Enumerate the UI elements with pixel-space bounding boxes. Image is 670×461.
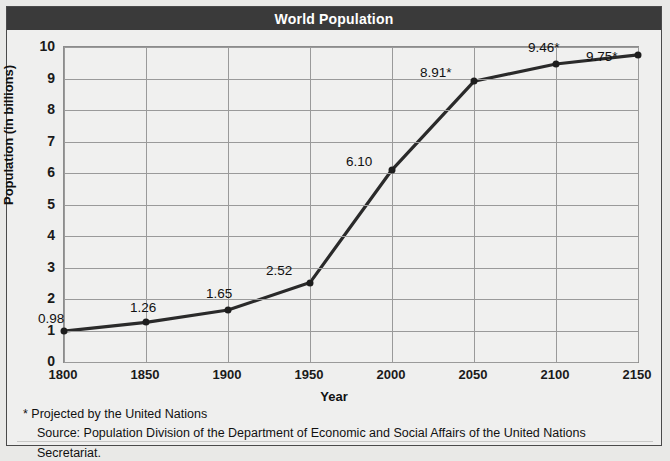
gridline-vertical xyxy=(310,47,311,362)
chart-figure: World Population Population (in billions… xyxy=(6,6,662,446)
y-axis-title: Population (in billions) xyxy=(1,65,16,205)
data-point xyxy=(307,279,314,286)
plot-area: 0.981.261.652.526.108.91*9.46*9.75* xyxy=(63,46,639,363)
y-axis-tick-label: 5 xyxy=(25,196,55,212)
chart-title-bar: World Population xyxy=(7,7,661,30)
footer-divider xyxy=(17,441,653,442)
chart-title: World Population xyxy=(275,11,394,27)
y-axis-tick-label: 8 xyxy=(25,101,55,117)
gridline-horizontal xyxy=(64,331,638,332)
data-point xyxy=(553,61,560,68)
data-point-value-label: 2.52 xyxy=(266,263,292,278)
x-axis-tick-label: 2000 xyxy=(377,367,406,382)
data-point-value-label: 1.65 xyxy=(206,286,232,301)
gridline-horizontal xyxy=(64,142,638,143)
data-point xyxy=(635,51,642,58)
gridline-horizontal xyxy=(64,268,638,269)
data-point-value-label: 9.46* xyxy=(528,40,560,55)
y-axis-tick-label: 9 xyxy=(25,70,55,86)
data-point-value-label: 9.75* xyxy=(586,49,618,64)
gridline-horizontal xyxy=(64,362,638,363)
x-axis-title: Year xyxy=(7,389,661,404)
data-point xyxy=(389,166,396,173)
gridline-vertical xyxy=(638,47,639,362)
gridline-vertical xyxy=(228,47,229,362)
y-axis-tick-label: 2 xyxy=(25,290,55,306)
gridline-horizontal xyxy=(64,110,638,111)
data-point-value-label: 6.10 xyxy=(346,154,372,169)
data-point-value-label: 8.91* xyxy=(420,65,452,80)
projection-note: * Projected by the United Nations xyxy=(23,405,643,424)
x-axis-tick-label: 1850 xyxy=(131,367,160,382)
x-axis-tick-label: 2050 xyxy=(459,367,488,382)
x-axis-tick-label: 1900 xyxy=(213,367,242,382)
source-note: Source: Population Division of the Depar… xyxy=(23,424,643,461)
gridline-vertical xyxy=(474,47,475,362)
data-point xyxy=(471,78,478,85)
x-axis-tick-label: 2100 xyxy=(541,367,570,382)
y-axis-tick-label: 10 xyxy=(25,38,55,54)
gridline-vertical xyxy=(392,47,393,362)
data-point-value-label: 1.26 xyxy=(130,300,156,315)
y-axis-tick-label: 6 xyxy=(25,164,55,180)
chart-notes: * Projected by the United Nations Source… xyxy=(23,405,643,461)
data-point xyxy=(143,319,150,326)
gridline-horizontal xyxy=(64,173,638,174)
x-axis-tick-label: 1950 xyxy=(295,367,324,382)
gridline-horizontal xyxy=(64,236,638,237)
x-axis-tick-label: 1800 xyxy=(49,367,78,382)
gridline-horizontal xyxy=(64,79,638,80)
y-axis-tick-label: 3 xyxy=(25,259,55,275)
y-axis-tick-label: 4 xyxy=(25,227,55,243)
data-point xyxy=(225,307,232,314)
data-point xyxy=(61,328,68,335)
data-point-value-label: 0.98 xyxy=(38,311,64,326)
y-axis-tick-label: 7 xyxy=(25,133,55,149)
gridline-horizontal xyxy=(64,205,638,206)
x-axis-tick-label: 2150 xyxy=(623,367,652,382)
gridline-vertical xyxy=(556,47,557,362)
